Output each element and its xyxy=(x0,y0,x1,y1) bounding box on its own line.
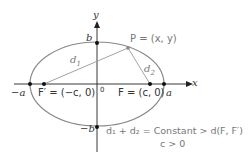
point-neg-a xyxy=(28,82,32,86)
point-f xyxy=(148,82,152,86)
point-a xyxy=(162,82,166,86)
vertex-neg-b-label: −b xyxy=(80,124,95,134)
focus-right-label: F = (c, 0) xyxy=(118,88,165,98)
vertex-a-label: a xyxy=(166,88,172,98)
x-axis-label: x xyxy=(192,78,198,88)
d2-label: d2 xyxy=(144,64,155,77)
y-axis-label: y xyxy=(93,10,99,20)
point-p-label: P = (x, y) xyxy=(130,34,177,44)
condition-text: c > 0 xyxy=(160,139,185,149)
equation-text: d₁ + d₂ = Constant > d(F, F′) xyxy=(106,126,243,136)
point-neg-b xyxy=(95,125,99,129)
point-b xyxy=(95,41,99,45)
focus-left-label: F′ = (−c, 0) xyxy=(38,88,95,98)
vertex-b-label: b xyxy=(86,33,92,43)
d1-label: d1 xyxy=(70,55,81,68)
ellipse-diagram xyxy=(0,0,251,161)
segment-d1 xyxy=(44,48,128,84)
point-f-prime xyxy=(42,82,46,86)
origin-label: 0 xyxy=(100,87,104,94)
point-p xyxy=(126,46,130,50)
y-axis-arrow-icon xyxy=(94,21,100,28)
vertex-neg-a-label: −a xyxy=(11,88,25,98)
